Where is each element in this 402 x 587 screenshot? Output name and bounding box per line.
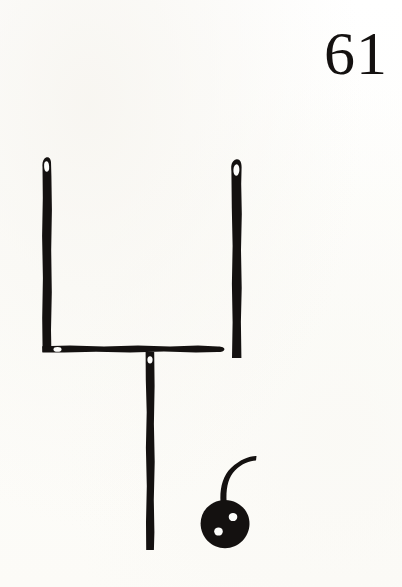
crossbar-left-eyelet	[54, 347, 62, 352]
scanned-book-page: 61 goalpost-and-button-line-drawing	[0, 0, 402, 587]
left-upright	[42, 157, 52, 352]
goalpost-illustration: goalpost-and-button-line-drawing	[0, 0, 402, 587]
button	[201, 500, 250, 548]
right-upright	[231, 159, 242, 358]
button-hole-upper	[229, 513, 238, 521]
center-post	[146, 352, 155, 550]
crossbar	[42, 345, 224, 352]
button-hole-lower	[214, 527, 223, 535]
center-post-eyelet	[147, 356, 152, 363]
